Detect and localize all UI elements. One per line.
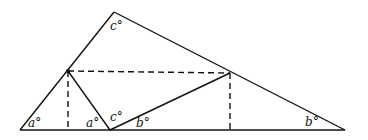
angle-a-left: a° (28, 116, 41, 130)
geometry-figure: a°a°c°b°c°b° (0, 0, 368, 140)
angle-labels: a°a°c°b°c°b° (28, 19, 319, 130)
angle-a-middle: a° (86, 116, 99, 130)
dashed-segment-P-Q (68, 71, 230, 73)
diagram-canvas: a°a°c°b°c°b° (0, 0, 368, 140)
angle-c-bottom: c° (110, 110, 123, 124)
angle-c-top: c° (110, 19, 123, 33)
angle-b-middle: b° (136, 116, 150, 130)
angle-b-right: b° (305, 115, 319, 129)
segment-M-Q (110, 73, 230, 130)
vertex-points (66, 69, 70, 73)
point-P (66, 69, 70, 73)
